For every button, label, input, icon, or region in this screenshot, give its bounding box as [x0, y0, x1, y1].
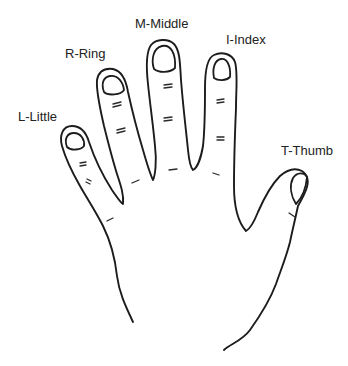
hand-diagram: M-Middle I-Index R-Ring L-Little T-Thumb	[0, 0, 348, 366]
label-index: I-Index	[226, 33, 266, 46]
middle-nail	[153, 46, 175, 72]
label-middle: M-Middle	[135, 17, 188, 30]
label-little: L-Little	[18, 110, 57, 123]
thumb-nail	[291, 173, 307, 204]
label-thumb: T-Thumb	[281, 144, 333, 157]
label-ring: R-Ring	[65, 47, 105, 60]
hand-drawing	[0, 0, 348, 366]
ring-nail	[103, 76, 124, 95]
finger-creases	[80, 84, 224, 184]
hand-outline	[61, 40, 308, 350]
index-nail	[213, 59, 230, 80]
little-nail	[66, 133, 84, 150]
